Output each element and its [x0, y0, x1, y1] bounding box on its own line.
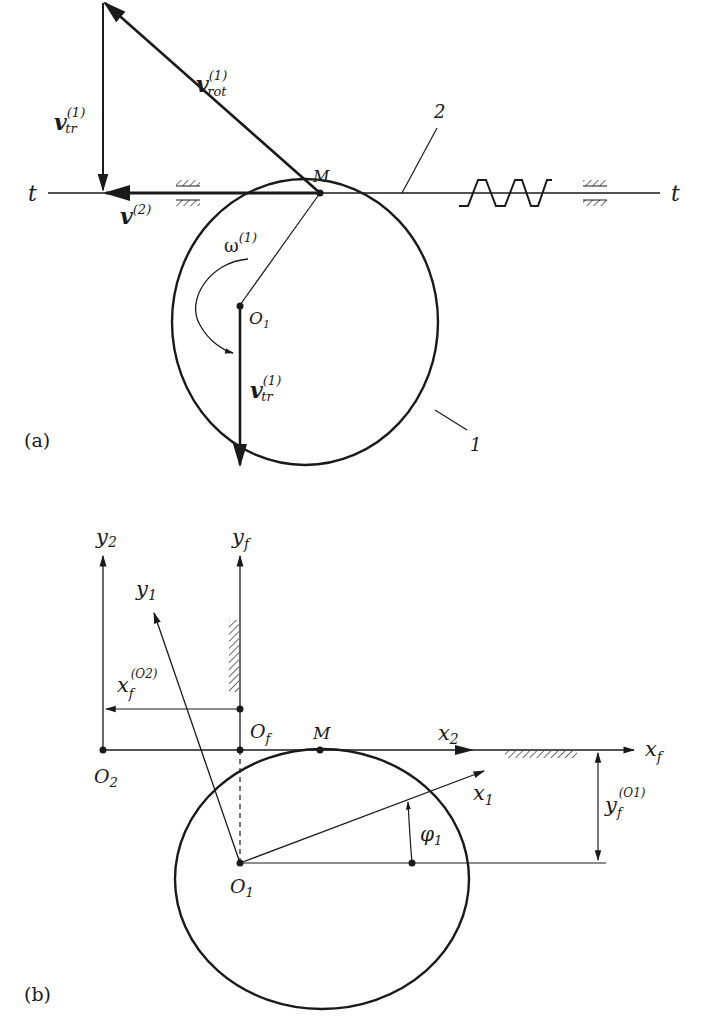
- O2-label: O2: [94, 765, 118, 790]
- cam-1: [172, 179, 438, 465]
- point-M-b: [317, 747, 324, 754]
- point-Of: [237, 747, 244, 754]
- part-1-label: 1: [470, 434, 481, 455]
- Of-label: Of: [250, 720, 273, 746]
- t-left-label: t: [28, 181, 37, 206]
- O1-label-b: O1: [230, 875, 254, 900]
- part-2-label: 2: [433, 101, 445, 122]
- xf-label: xf: [645, 737, 665, 765]
- point-O1: [237, 303, 244, 310]
- xf-O2-label: xf(O2): [117, 667, 158, 701]
- O1-label-a: O1: [249, 308, 270, 331]
- panel-a-label: (a): [24, 429, 50, 451]
- t-right-label: t: [671, 181, 680, 206]
- radius-O1-M: [240, 193, 320, 305]
- v2-label: v(2): [120, 202, 151, 229]
- M-label-a: M: [312, 167, 330, 186]
- v-rot-label: v(1)rot: [196, 68, 227, 99]
- cam-1-b: [175, 749, 469, 1009]
- point-Of-dim: [237, 706, 244, 713]
- phi1-label: φ1: [420, 822, 442, 848]
- omega-label: ω(1): [224, 230, 257, 256]
- v-tr-bottom-label: v(1)tr: [250, 373, 281, 404]
- panel-a: t t M 2 1 O1 v(1)rot v(1)tr v(2) ω(1) v(…: [24, 3, 680, 465]
- point-O2: [100, 747, 107, 754]
- point-O1-b: [237, 860, 244, 867]
- leader-1: [435, 410, 467, 430]
- ground-hatch-horizontal: [505, 751, 577, 758]
- x2-label: x2: [438, 721, 459, 747]
- y1-label: y1: [135, 577, 157, 603]
- leader-2: [402, 128, 437, 193]
- yf-O1-label: yf(O1): [604, 786, 646, 820]
- x1-label: x1: [473, 781, 494, 808]
- phi1-arc: [408, 802, 412, 863]
- y2-label: y2: [95, 525, 117, 550]
- point-M: [317, 190, 324, 197]
- ground-hatch-vertical: [229, 620, 239, 692]
- v-tr-top-label: v(1)tr: [54, 105, 85, 136]
- y1-axis: [154, 613, 240, 863]
- yf-label: yf: [231, 525, 252, 552]
- point-phi1: [409, 860, 416, 867]
- x1-axis: [240, 771, 484, 863]
- M-label-b: M: [312, 723, 331, 743]
- panel-b: y2 yf y1 x2 xf x1 O2 Of M O1 xf(O2) yf(O…: [24, 525, 665, 1009]
- gear-kinematics-figure: t t M 2 1 O1 v(1)rot v(1)tr v(2) ω(1) v(…: [0, 0, 708, 1027]
- panel-b-label: (b): [24, 983, 51, 1005]
